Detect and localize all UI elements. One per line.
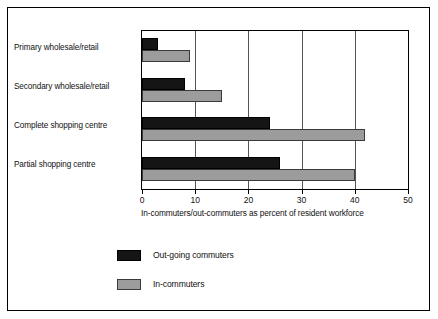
x-tick-label-4: 40 bbox=[350, 195, 359, 206]
plot-area bbox=[141, 30, 409, 190]
bar-in-commuters-primary-wholesale-retail bbox=[142, 50, 190, 62]
x-tick-mark-5 bbox=[408, 190, 409, 194]
bar-in-commuters-secondary-wholesale-retail bbox=[142, 90, 222, 102]
x-tick-label-3: 30 bbox=[297, 195, 306, 206]
x-tick-mark-2 bbox=[248, 190, 249, 194]
x-tick-mark-3 bbox=[302, 190, 303, 194]
category-label-2: Complete shopping centre bbox=[14, 121, 136, 131]
category-label-1: Secondary wholesale/retail bbox=[14, 82, 136, 92]
bar-out-going-complete-shopping-centre bbox=[142, 117, 270, 129]
x-tick-label-0: 0 bbox=[140, 195, 145, 206]
bar-out-going-primary-wholesale-retail bbox=[142, 38, 158, 50]
gridline-30 bbox=[302, 31, 303, 189]
x-tick-mark-1 bbox=[195, 190, 196, 194]
x-tick-mark-0 bbox=[142, 190, 143, 194]
bar-in-commuters-partial-shopping-centre bbox=[142, 169, 355, 181]
legend-label-out-going-commuters: Out-going commuters bbox=[153, 249, 234, 262]
legend-swatch-out-going-commuters bbox=[117, 250, 141, 261]
bar-out-going-secondary-wholesale-retail bbox=[142, 78, 185, 90]
legend-swatch-in-commuters bbox=[117, 279, 141, 290]
bar-in-commuters-complete-shopping-centre bbox=[142, 129, 365, 141]
bar-out-going-partial-shopping-centre bbox=[142, 157, 280, 169]
category-label-3: Partial shopping centre bbox=[14, 160, 136, 170]
x-tick-mark-4 bbox=[355, 190, 356, 194]
x-tick-label-5: 50 bbox=[403, 195, 412, 206]
category-label-0: Primary wholesale/retail bbox=[14, 43, 136, 53]
legend: Out-going commuters In-commuters bbox=[117, 249, 337, 297]
gridline-40 bbox=[355, 31, 356, 189]
x-axis: 0 10 20 30 40 50 bbox=[141, 190, 409, 210]
x-axis-title: In-commuters/out-commuters as percent of… bbox=[141, 208, 421, 219]
category-axis: Primary wholesale/retail Secondary whole… bbox=[14, 30, 140, 190]
x-tick-label-1: 10 bbox=[190, 195, 199, 206]
x-tick-label-2: 20 bbox=[244, 195, 253, 206]
figure-container: Primary wholesale/retail Secondary whole… bbox=[0, 0, 438, 319]
legend-label-in-commuters: In-commuters bbox=[153, 278, 204, 291]
